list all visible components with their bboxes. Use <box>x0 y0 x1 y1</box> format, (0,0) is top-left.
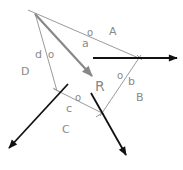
region-label-d: D <box>21 65 29 78</box>
origin-mark-a: o <box>87 27 93 38</box>
region-label-b: B <box>136 91 144 104</box>
force-polygon-diagram: A B C D a b c d o o o o R <box>0 0 183 170</box>
side-label-a: a <box>82 37 89 50</box>
force-arrow-bottom <box>91 93 126 155</box>
origin-mark-d: o <box>48 49 54 60</box>
side-label-c: c <box>66 102 72 115</box>
origin-mark-c: o <box>75 92 81 103</box>
origin-mark-b: o <box>117 70 123 81</box>
force-arrow-lower-left <box>9 84 68 148</box>
side-a-line <box>28 10 141 59</box>
side-label-b: b <box>128 75 135 88</box>
resultant-label: R <box>95 78 105 94</box>
side-label-d: d <box>35 48 42 61</box>
region-label-a: A <box>109 25 117 38</box>
region-label-c: C <box>62 123 70 136</box>
